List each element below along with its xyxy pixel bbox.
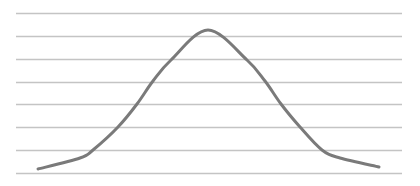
chart-plot-area	[0, 0, 420, 186]
bell-curve-chart	[0, 0, 420, 186]
gridlines	[16, 14, 402, 174]
bell-curve-line	[38, 30, 379, 169]
